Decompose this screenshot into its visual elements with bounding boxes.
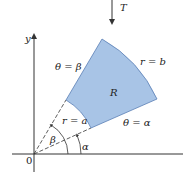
angle-beta-label: β — [49, 134, 56, 145]
inner-radius-label: r = a — [62, 115, 88, 126]
upper-ray-label: θ = β — [55, 61, 82, 72]
lower-ray-label: θ = α — [123, 117, 151, 128]
polar-diagram: T y 0 R r = b r = a θ = β θ = α β α — [0, 0, 183, 185]
y-axis-label: y — [24, 33, 31, 44]
ray-beta — [34, 100, 66, 154]
angle-alpha-arc — [77, 135, 81, 154]
angle-alpha-label: α — [82, 141, 89, 152]
transform-label: T — [120, 2, 128, 13]
origin-label: 0 — [26, 155, 32, 166]
region-label: R — [109, 87, 118, 98]
outer-radius-label: r = b — [140, 56, 166, 67]
